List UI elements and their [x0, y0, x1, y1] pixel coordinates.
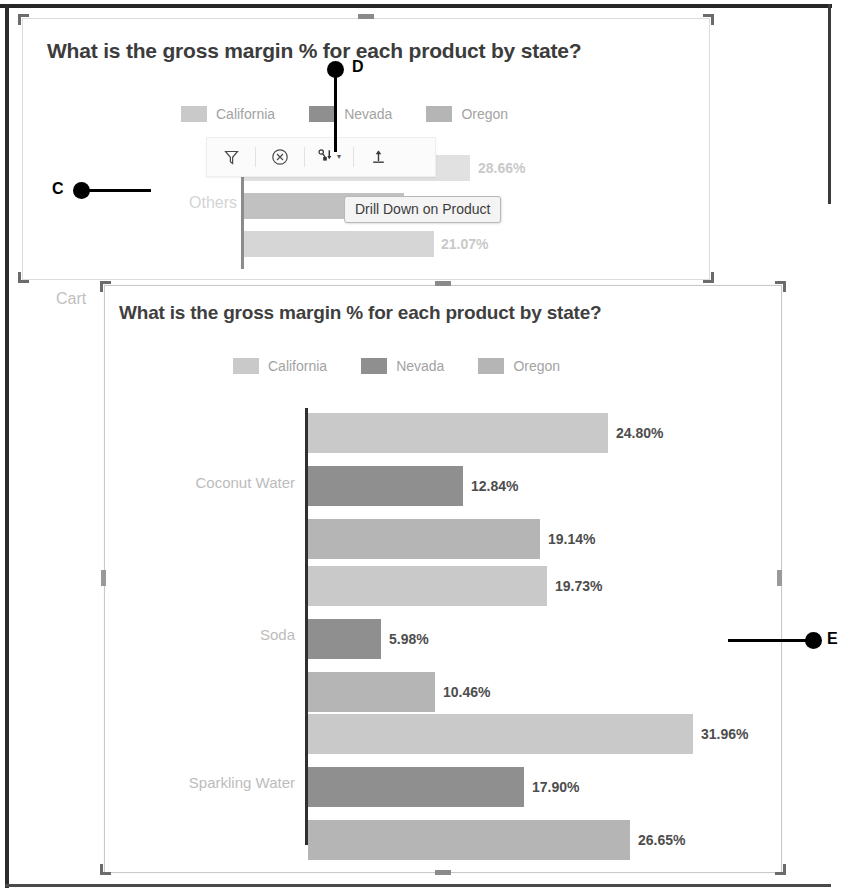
front-bar-row-soda-california[interactable]: 19.73% [308, 566, 568, 606]
clipped-category-label-cart: Cart [56, 290, 86, 308]
front-bar-row-soda-oregon[interactable]: 10.46% [308, 672, 468, 712]
drill-up-toolbar-button[interactable] [354, 138, 402, 176]
front-bar-sparkling-oregon[interactable] [308, 820, 630, 860]
drill-down-caret-icon[interactable]: ▾ [337, 153, 341, 161]
callout-letter-c: C [52, 180, 64, 198]
background-bar-row-oregon[interactable]: 21.07% [244, 231, 454, 257]
screenshot-root: What is the gross margin % for each prod… [0, 0, 845, 892]
drill-down-icon [318, 148, 335, 166]
filter-icon [223, 149, 240, 166]
selection-handle-back-bottom-right[interactable] [703, 272, 714, 283]
front-bar-coconut-oregon[interactable] [308, 519, 540, 559]
front-bar-row-coconut-oregon[interactable]: 19.14% [308, 519, 558, 559]
filter-toolbar-button[interactable] [207, 138, 255, 176]
front-bar-row-coconut-california[interactable]: 24.80% [308, 413, 618, 453]
front-bar-row-sparkling-oregon[interactable]: 26.65% [308, 820, 658, 860]
callout-line-e [728, 639, 808, 642]
front-bar-value-soda-oregon: 10.46% [443, 684, 490, 700]
front-bar-soda-nevada[interactable] [308, 619, 381, 659]
front-bar-coconut-nevada[interactable] [308, 466, 463, 506]
page-frame-left [5, 4, 9, 888]
front-bar-value-sparkling-oregon: 26.65% [638, 832, 685, 848]
selection-handle-front-left-mid[interactable] [101, 570, 106, 586]
front-bar-value-sparkling-nevada: 17.90% [532, 779, 579, 795]
selection-handle-front-bottom-right[interactable] [775, 864, 786, 875]
front-bar-row-coconut-nevada[interactable]: 12.84% [308, 466, 488, 506]
selection-handle-front-right-mid[interactable] [777, 570, 782, 586]
front-bar-row-sparkling-nevada[interactable]: 17.90% [308, 767, 548, 807]
front-bar-value-coconut-nevada: 12.84% [471, 478, 518, 494]
front-bar-sparkling-nevada[interactable] [308, 767, 524, 807]
front-category-label-sparkling-water[interactable]: Sparkling Water [125, 774, 295, 791]
clear-circle-x-icon [271, 148, 289, 166]
background-category-label-others[interactable]: Others [141, 194, 237, 212]
front-chart-plot: Coconut Water 24.80% 12.84% 19.14% Soda … [105, 286, 783, 874]
front-category-label-coconut-water[interactable]: Coconut Water [135, 474, 295, 491]
drill-up-arrow-icon [370, 148, 387, 166]
front-bar-row-sparkling-california[interactable]: 31.96% [308, 714, 718, 754]
selection-handle-front-bottom-left[interactable] [100, 864, 111, 875]
front-bar-soda-oregon[interactable] [308, 672, 435, 712]
drill-down-tooltip: Drill Down on Product [344, 196, 501, 223]
callout-line-d [334, 74, 337, 152]
drill-toolbar[interactable]: ▾ [206, 137, 436, 177]
front-category-label-soda[interactable]: Soda [135, 626, 295, 643]
background-bar-value-california: 28.66% [478, 160, 525, 176]
front-bar-value-coconut-oregon: 19.14% [548, 531, 595, 547]
page-frame-bottom [5, 884, 831, 887]
front-bar-row-soda-nevada[interactable]: 5.98% [308, 619, 418, 659]
background-bar-value-oregon: 21.07% [441, 236, 488, 252]
background-bar-oregon[interactable] [244, 231, 434, 257]
selection-handle-front-bottom-mid[interactable] [435, 870, 451, 875]
selection-handle-back-top-mid[interactable] [358, 14, 374, 19]
drill-down-toolbar-button[interactable]: ▾ [305, 138, 353, 176]
front-bar-value-soda-california: 19.73% [555, 578, 602, 594]
selection-handle-front-top-mid[interactable] [435, 281, 451, 286]
page-frame-top [0, 4, 832, 8]
callout-line-c [88, 189, 151, 192]
selection-handle-back-bottom-left[interactable] [18, 272, 29, 283]
selection-handle-front-top-left[interactable] [100, 281, 111, 292]
front-bar-value-sparkling-california: 31.96% [701, 726, 748, 742]
callout-letter-e: E [827, 630, 838, 648]
page-frame-right [828, 4, 831, 204]
clear-selection-toolbar-button[interactable] [256, 138, 304, 176]
front-bar-value-soda-nevada: 5.98% [389, 631, 429, 647]
callout-letter-d: D [352, 58, 364, 76]
selection-handle-front-top-right[interactable] [775, 281, 786, 292]
front-bar-soda-california[interactable] [308, 566, 547, 606]
front-bar-sparkling-california[interactable] [308, 714, 693, 754]
front-bar-coconut-california[interactable] [308, 413, 608, 453]
front-chart-panel[interactable]: What is the gross margin % for each prod… [104, 285, 782, 873]
selection-handle-back-top-right[interactable] [703, 14, 714, 25]
front-bar-value-coconut-california: 24.80% [616, 425, 663, 441]
selection-handle-back-top-left[interactable] [18, 14, 29, 25]
